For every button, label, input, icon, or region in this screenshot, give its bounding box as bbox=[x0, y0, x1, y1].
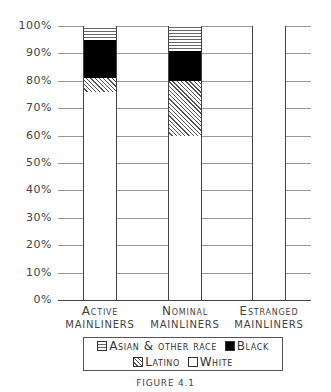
black-swatch-icon bbox=[225, 341, 235, 351]
bar-segment-white bbox=[253, 26, 285, 300]
bar-segment-white bbox=[169, 136, 201, 300]
x-label-line2: mainliners bbox=[55, 318, 145, 331]
y-tick-label: 100% bbox=[0, 19, 52, 32]
figure-caption: FIGURE 4.1 bbox=[0, 378, 331, 388]
legend-black-label: Black bbox=[237, 339, 269, 353]
x-label-line1: Estranged bbox=[224, 305, 314, 318]
y-tick-label: 40% bbox=[0, 183, 52, 196]
x-label-line1: Active bbox=[55, 305, 145, 318]
bar-segment-black bbox=[84, 40, 116, 78]
x-label-line1: Nominal bbox=[140, 305, 230, 318]
legend-white-label: White bbox=[200, 355, 233, 369]
y-tick-label: 80% bbox=[0, 74, 52, 87]
asian-swatch-icon bbox=[97, 341, 107, 351]
bar-segment-black bbox=[169, 51, 201, 81]
x-label-nominal: Nominal mainliners bbox=[140, 305, 230, 331]
bar-segment-latino bbox=[84, 78, 116, 92]
y-tick-label: 10% bbox=[0, 266, 52, 279]
x-label-active: Active mainliners bbox=[55, 305, 145, 331]
bar-estranged-mainliners bbox=[252, 26, 286, 301]
x-label-estranged: Estranged mainliners bbox=[224, 305, 314, 331]
legend-row-1: Asian & other race Black bbox=[84, 338, 282, 354]
y-tick-label: 30% bbox=[0, 211, 52, 224]
white-swatch-icon bbox=[188, 357, 198, 367]
x-label-line2: mainliners bbox=[224, 318, 314, 331]
legend-asian-label: Asian & other race bbox=[109, 339, 217, 353]
latino-swatch-icon bbox=[133, 357, 143, 367]
y-tick-label: 0% bbox=[0, 293, 52, 306]
bar-nominal-mainliners bbox=[168, 26, 202, 301]
bar-segment-white bbox=[84, 92, 116, 300]
y-tick-label: 20% bbox=[0, 238, 52, 251]
bar-segment-asian bbox=[84, 26, 116, 40]
bar-segment-latino bbox=[169, 81, 201, 136]
y-tick-label: 70% bbox=[0, 101, 52, 114]
legend: Asian & other race Black Latino White bbox=[83, 337, 283, 371]
y-tick-label: 60% bbox=[0, 129, 52, 142]
legend-latino-label: Latino bbox=[145, 355, 180, 369]
bar-active-mainliners bbox=[83, 26, 117, 301]
x-label-line2: mainliners bbox=[140, 318, 230, 331]
y-tick-label: 90% bbox=[0, 46, 52, 59]
bar-segment-asian bbox=[169, 26, 201, 51]
legend-row-2: Latino White bbox=[84, 354, 282, 370]
y-tick-label: 50% bbox=[0, 156, 52, 169]
